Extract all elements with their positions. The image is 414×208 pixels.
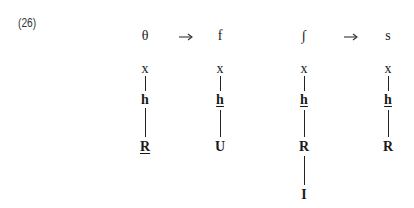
arrow-right-icon [344, 32, 358, 42]
node-h-underlined: h [378, 93, 398, 107]
node-r: R [378, 140, 398, 154]
tree-edge [145, 76, 146, 91]
example-number: (26) [18, 16, 36, 30]
node-x: x [135, 62, 155, 76]
tree-edge [304, 156, 305, 185]
node-r-underlined: R [135, 140, 155, 154]
tree-edge [220, 110, 221, 137]
tree-edge [304, 110, 305, 137]
tree-edge [388, 110, 389, 137]
arrow-right-icon [179, 32, 193, 42]
tree-edge [220, 76, 221, 91]
node-x: x [378, 62, 398, 76]
node-h: h [135, 93, 155, 107]
tree-edge [388, 76, 389, 91]
top-symbol-theta: θ [135, 29, 155, 43]
top-symbol-integral: ∫ [294, 29, 314, 43]
node-h-underlined: h [294, 93, 314, 107]
node-r: R [294, 140, 314, 154]
top-symbol-s: s [378, 29, 398, 43]
node-h-underlined: h [210, 93, 230, 107]
node-i: I [294, 188, 314, 202]
node-x: x [294, 62, 314, 76]
node-u: U [210, 140, 230, 154]
tree-edge [304, 76, 305, 91]
tree-edge [145, 108, 146, 137]
top-symbol-f: f [210, 29, 230, 43]
node-x: x [210, 62, 230, 76]
